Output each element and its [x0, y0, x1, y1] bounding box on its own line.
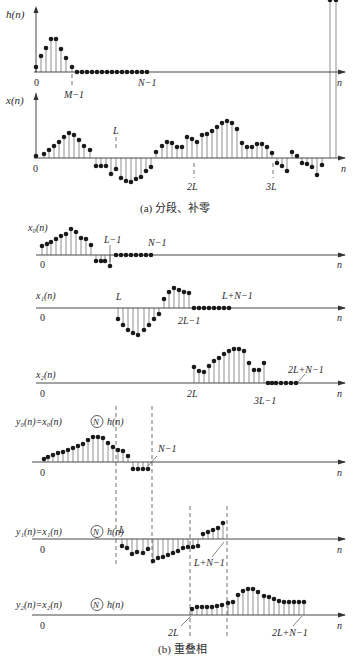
sample-point	[287, 600, 292, 605]
sample-point	[140, 70, 145, 75]
sample-point	[210, 605, 215, 610]
sample-point	[77, 138, 82, 143]
y0-label-tail: h(n)	[107, 416, 124, 428]
x-tick-2l-label: 2L	[187, 181, 198, 192]
sample-point	[142, 328, 147, 333]
sample-point	[251, 587, 256, 592]
sample-point	[100, 70, 105, 75]
sample-point	[172, 286, 177, 291]
sample-point	[310, 165, 315, 170]
x0-origin-label: 0	[40, 259, 45, 270]
sample-point	[176, 549, 181, 554]
x0-axis-end: n	[337, 259, 342, 270]
panel-x2: x₂(n) 0 2L 3L−1 2L+N−1 n	[35, 347, 346, 406]
sample-point	[52, 144, 57, 149]
sample-point	[165, 140, 170, 145]
sample-point	[49, 240, 54, 245]
sample-point	[250, 145, 255, 150]
sample-point	[146, 467, 151, 472]
x2-tick-2l-label: 2L	[187, 388, 198, 399]
sample-point	[94, 259, 99, 264]
sample-point	[247, 361, 252, 366]
panel-h-label: h(n)	[6, 8, 25, 21]
x0-tick-n1-label: N−1	[147, 237, 166, 248]
sample-point	[242, 349, 247, 354]
sample-point	[284, 381, 289, 386]
sample-point	[104, 164, 109, 169]
sample-point	[76, 444, 81, 449]
sample-point	[260, 142, 265, 147]
sample-point	[257, 368, 262, 373]
sample-point	[200, 605, 205, 610]
sample-point	[292, 600, 297, 605]
sample-point	[216, 526, 221, 531]
sample-point	[64, 56, 69, 61]
sample-point	[136, 467, 141, 472]
sample-point	[89, 243, 94, 248]
sample-point	[289, 381, 294, 386]
y1-axis-end: n	[337, 544, 342, 555]
sample-point	[151, 559, 156, 564]
y2-axis-end: n	[337, 620, 342, 631]
sample-point	[54, 237, 59, 242]
sample-point	[207, 306, 212, 311]
sample-point	[220, 121, 225, 126]
y0-tick-n1-label: N−1	[157, 443, 176, 454]
sample-point	[110, 70, 115, 75]
x1-tick-l-label: L	[115, 291, 122, 302]
sample-point	[162, 297, 167, 302]
sample-point	[121, 449, 126, 454]
sample-point	[114, 253, 119, 258]
sample-point	[119, 176, 124, 181]
x-tick-l-label: L	[112, 125, 119, 136]
sample-point	[47, 148, 52, 153]
sample-point	[275, 161, 280, 166]
sample-point	[300, 161, 305, 166]
sample-point	[315, 173, 320, 178]
sample-point	[206, 530, 211, 535]
sample-point	[177, 288, 182, 293]
sample-point	[270, 151, 275, 156]
sample-point	[197, 369, 202, 374]
y2-x-arrow-icon	[338, 613, 346, 618]
sample-point	[42, 152, 47, 157]
sample-point	[129, 253, 134, 258]
sample-point	[67, 131, 72, 136]
panel-h: h(n) 0 M−1 N−1 n	[6, 6, 346, 100]
sample-point	[135, 550, 140, 555]
panel-x1: x₁(n) 0 L 2L−1 L+N−1 n	[35, 286, 346, 338]
x2-axis-end: n	[337, 388, 342, 399]
sample-point	[136, 333, 141, 338]
sample-point	[120, 70, 125, 75]
sample-point	[84, 237, 89, 242]
x2-leader	[298, 374, 305, 382]
sample-point	[156, 556, 161, 561]
x1-axis-end: n	[337, 312, 342, 323]
sample-point	[227, 349, 232, 354]
panel-y2: y₂(n)=x₂(n) N h(n) 0 2L 2L+N−1 n	[15, 587, 346, 638]
x1-x-arrow-icon	[338, 306, 346, 311]
h-tick-n1-label: N−1	[137, 77, 156, 88]
y2-leader-2l	[181, 616, 191, 626]
sample-point	[170, 141, 175, 146]
sample-point	[205, 132, 210, 137]
sample-point	[85, 70, 90, 75]
sample-point	[279, 381, 284, 386]
sample-point	[64, 232, 69, 237]
sample-point	[236, 593, 241, 598]
sample-point	[175, 145, 180, 150]
sample-point	[280, 164, 285, 169]
sample-point	[144, 169, 149, 174]
sample-point	[201, 532, 206, 537]
sample-point	[135, 70, 140, 75]
sample-point	[262, 594, 267, 599]
sample-point	[232, 347, 237, 352]
sample-point	[139, 253, 144, 258]
caption-b: (b) 重叠相	[158, 642, 207, 656]
sample-point	[121, 323, 126, 328]
sample-point	[116, 448, 121, 453]
sample-point	[108, 264, 113, 269]
sample-point	[94, 164, 99, 169]
sample-point	[103, 259, 108, 264]
sample-point	[274, 381, 279, 386]
